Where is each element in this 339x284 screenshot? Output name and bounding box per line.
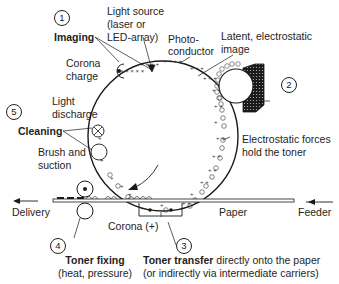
light-discharge-lamp-icon [92,125,104,137]
paper-sheet [53,199,294,202]
light-discharge-label-2: discharge [52,108,98,120]
toner-transfer-desc: directly onto the paper [213,254,320,266]
latent-image-label-2: image [221,43,250,55]
svg-text:× × × × ×: × × × × × [120,68,145,74]
step-5-badge: 5 [6,104,22,120]
brush-suction-label-2: suction [38,159,71,171]
rotation-arrow-icon [128,183,138,190]
photoconductor-label-2: conductor [168,45,214,57]
svg-text:+: + [160,202,164,208]
svg-text:+: + [190,191,194,197]
light-source-label: Light source [107,5,164,17]
corona-plus-label: Corona (+) [108,220,158,232]
toner-fixing-label: Toner fixing [50,254,140,266]
feeder-arrow-icon [306,199,333,205]
electrostatic-forces-label-2: hold the toner [242,146,306,158]
svg-text:+ + +: + + + [203,75,217,81]
svg-text:+ + +: + + + [190,65,204,71]
brush-suction-label: Brush and [38,146,86,158]
photoconductor-label: Photo- [168,33,199,45]
electrostatic-forces-label: Electrostatic forces [242,133,331,145]
light-source-label-3: LED-array) [107,31,158,43]
paper-label: Paper [219,206,247,218]
delivery-label: Delivery [12,206,50,218]
corona-charge-label: Corona [66,57,100,69]
step-4-badge: 4 [50,238,66,254]
svg-text:+: + [214,119,218,125]
step-2-badge: 2 [281,77,297,93]
step-1-badge: 1 [54,10,70,26]
corona-charge-label-2: charge [66,70,98,82]
light-source-label-2: (laser or [107,18,146,30]
light-discharge-label: Light [52,95,75,107]
toner-transfer-title: Toner transfer [143,254,213,266]
svg-text:+ + + +: + + + + [163,58,183,64]
delivery-arrow-icon [13,198,38,204]
toner-transfer-sublabel: (or indirectly via intermediate carriers… [143,267,319,279]
toner-fixing-sublabel: (heat, pressure) [50,267,140,279]
step-3-badge: 3 [176,238,192,254]
feeder-label: Feeder [298,206,331,218]
latent-image-label: Latent, electrostatic [221,30,312,42]
cleaning-label: Cleaning [18,125,62,137]
imaging-label: Imaging [54,31,94,43]
cleaning-brush [91,144,107,160]
svg-text:+: + [120,183,124,189]
laser-printer-diagram: × × × × × + + + + + + + + + + + + + + + … [0,0,339,284]
toner-transfer-label: Toner transfer directly onto the paper [143,254,320,266]
